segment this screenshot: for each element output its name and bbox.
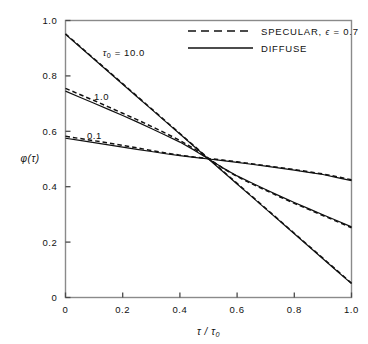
y-tick-label-1: 0.2 <box>42 237 57 248</box>
x-tick-label-1: 0.2 <box>115 304 130 315</box>
tick-labels: 00.20.40.60.81.000.20.40.60.81.0 <box>42 15 359 315</box>
y-tick-label-0: 0 <box>52 292 58 303</box>
chart-legend: SPECULAR, ϵ = 0.7DIFFUSE <box>188 26 359 54</box>
x-axis-title: τ / τ0 <box>197 326 220 339</box>
x-tick-label-5: 1.0 <box>344 304 359 315</box>
x-tick-label-3: 0.6 <box>230 304 245 315</box>
figure-container: 00.20.40.60.81.000.20.40.60.81.0 τ0 = 10… <box>0 0 368 344</box>
line-chart: 00.20.40.60.81.000.20.40.60.81.0 τ0 = 10… <box>0 0 368 344</box>
y-tick-label-4: 0.8 <box>42 70 57 81</box>
curve-solid-tau0-0-1 <box>66 138 352 180</box>
y-tick-label-2: 0.4 <box>42 181 57 192</box>
curve-annotation-2: 0.1 <box>87 130 102 141</box>
legend-label-1: DIFFUSE <box>261 43 307 54</box>
x-tick-label-4: 0.8 <box>287 304 302 315</box>
data-curves <box>66 34 352 284</box>
x-tick-label-2: 0.4 <box>172 304 187 315</box>
curve-annotation-0: τ0 = 10.0 <box>103 47 145 60</box>
curve-annotation-1: 1.0 <box>94 91 109 102</box>
x-tick-label-0: 0 <box>63 304 69 315</box>
y-tick-label-3: 0.6 <box>42 126 57 137</box>
y-tick-label-5: 1.0 <box>42 15 57 26</box>
curve-dashed-tau0-0-1 <box>66 136 352 179</box>
legend-label-0: SPECULAR, ϵ = 0.7 <box>261 26 359 37</box>
y-axis-title: φ(τ) <box>21 153 40 164</box>
